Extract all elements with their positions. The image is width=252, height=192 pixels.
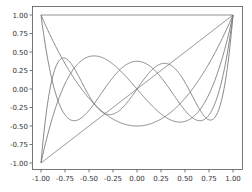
series-line-p2 <box>41 15 233 126</box>
x-tick-label: -0.75 <box>56 175 74 183</box>
y-tick-label: 1.00 <box>12 12 28 20</box>
y-tick-label: -0.50 <box>10 123 28 131</box>
x-tick-label: 0.00 <box>129 175 145 183</box>
x-tick-label: 0.25 <box>153 175 169 183</box>
x-axis: -1.00-0.75-0.50-0.250.000.250.500.751.00 <box>32 170 241 184</box>
y-tick-label: -0.75 <box>10 141 28 149</box>
x-tick-label: -1.00 <box>32 175 50 183</box>
y-tick-label: 0.50 <box>12 49 28 57</box>
x-tick-label: -0.25 <box>104 175 122 183</box>
x-tick-label: 0.75 <box>201 175 217 183</box>
y-tick-label: 0.00 <box>12 86 28 94</box>
y-tick-label: 0.25 <box>12 67 28 75</box>
y-tick-label: 0.75 <box>12 30 28 38</box>
y-axis: -1.00-0.75-0.50-0.250.000.250.500.751.00 <box>10 12 33 168</box>
y-tick-label: -1.00 <box>10 160 28 168</box>
series-lines <box>41 15 233 163</box>
series-line-p4 <box>41 15 233 121</box>
y-tick-label: -0.25 <box>10 104 28 112</box>
x-tick-label: 1.00 <box>225 175 241 183</box>
x-tick-label: -0.50 <box>80 175 98 183</box>
legendre-polynomials-chart: -1.00-0.75-0.50-0.250.000.250.500.751.00… <box>0 0 252 192</box>
x-tick-label: 0.50 <box>177 175 193 183</box>
